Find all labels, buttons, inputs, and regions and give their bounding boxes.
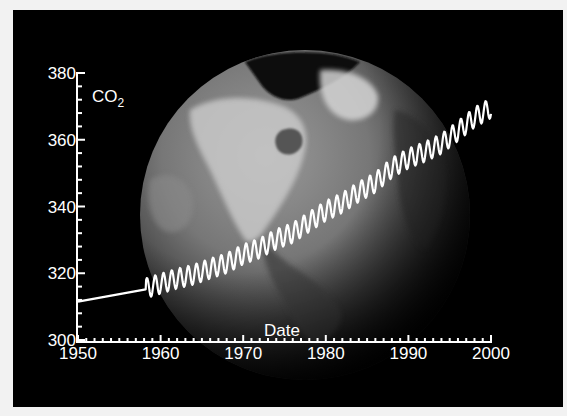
x-tick-label: 1980 xyxy=(307,344,345,363)
x-tick-label: 2000 xyxy=(472,344,510,363)
x-tick-label: 1950 xyxy=(59,344,97,363)
x-tick-label: 1960 xyxy=(142,344,180,363)
y-axis-title: CO2 xyxy=(92,87,125,110)
y-tick-label: 360 xyxy=(48,131,76,150)
x-axis-title: Date xyxy=(264,321,300,340)
y-axis-tick-labels: 300320340360380 xyxy=(48,64,76,350)
y-tick-label: 320 xyxy=(48,264,76,283)
y-tick-label: 340 xyxy=(48,198,76,217)
x-tick-label: 1970 xyxy=(224,344,262,363)
x-tick-label: 1990 xyxy=(389,344,427,363)
y-tick-label: 380 xyxy=(48,64,76,83)
co2-chart: 300320340360380 195019601970198019902000… xyxy=(0,0,567,416)
